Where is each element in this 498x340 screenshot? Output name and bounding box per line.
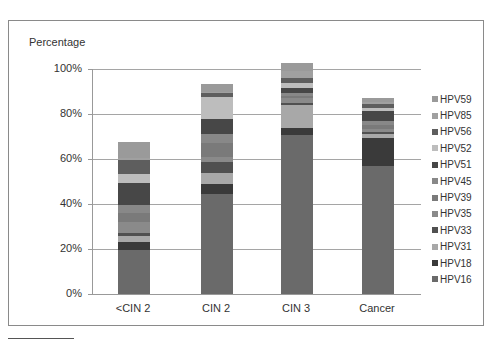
y-tick-label-40: 40% bbox=[42, 197, 82, 209]
bar-segment-hpv52 bbox=[201, 97, 233, 118]
bar-segment-hpv16 bbox=[201, 194, 233, 294]
y-tick-label-0: 0% bbox=[42, 287, 82, 299]
bar-cin3 bbox=[281, 63, 313, 294]
legend-item-hpv56: HPV56 bbox=[432, 124, 472, 140]
footnote-rule bbox=[8, 338, 74, 339]
y-tick-label-80: 80% bbox=[42, 107, 82, 119]
legend-label: HPV59 bbox=[440, 94, 472, 105]
legend-label: HPV45 bbox=[440, 176, 472, 187]
bar-segment-hpv39 bbox=[118, 213, 150, 222]
legend-swatch bbox=[432, 113, 438, 119]
bar-segment-hpv18 bbox=[118, 242, 150, 250]
bar-segment-hpv39 bbox=[201, 143, 233, 157]
plot-area bbox=[92, 69, 421, 295]
bar-segment-hpv16 bbox=[118, 250, 150, 294]
y-axis-title: Percentage bbox=[29, 36, 85, 48]
legend-item-hpv59: HPV59 bbox=[432, 91, 472, 107]
legend-swatch bbox=[432, 129, 438, 135]
legend-swatch bbox=[432, 211, 438, 217]
bar-segment-hpv31 bbox=[281, 105, 313, 128]
bar-segment-hpv16 bbox=[362, 166, 394, 294]
bar-segment-hpv31 bbox=[201, 173, 233, 184]
legend-swatch bbox=[432, 227, 438, 233]
bar-segment-hpv59 bbox=[281, 63, 313, 71]
bar-segment-hpv59 bbox=[118, 142, 150, 158]
legend-label: HPV33 bbox=[440, 225, 472, 236]
bar-segment-hpv18 bbox=[362, 138, 394, 166]
legend-label: HPV31 bbox=[440, 241, 472, 252]
bar-segment-hpv31 bbox=[118, 236, 150, 243]
legend-label: HPV51 bbox=[440, 159, 472, 170]
bar-segment-hpv35 bbox=[118, 222, 150, 233]
bar-cancer bbox=[362, 98, 394, 294]
bar-segment-hpv52 bbox=[118, 174, 150, 183]
legend: HPV59HPV85HPV56HPV52HPV51HPV45HPV39HPV35… bbox=[432, 91, 472, 288]
legend-item-hpv51: HPV51 bbox=[432, 157, 472, 173]
y-tick-label-60: 60% bbox=[42, 152, 82, 164]
legend-item-hpv52: HPV52 bbox=[432, 140, 472, 156]
bar-segment-hpv56 bbox=[118, 160, 150, 174]
legend-item-hpv45: HPV45 bbox=[432, 173, 472, 189]
legend-item-hpv85: HPV85 bbox=[432, 107, 472, 123]
legend-item-hpv18: HPV18 bbox=[432, 255, 472, 271]
legend-swatch bbox=[432, 96, 438, 102]
legend-swatch bbox=[432, 162, 438, 168]
x-label-cin3: CIN 3 bbox=[266, 302, 326, 314]
legend-label: HPV85 bbox=[440, 110, 472, 121]
legend-swatch bbox=[432, 276, 438, 282]
bar-segment-hpv51 bbox=[362, 111, 394, 121]
legend-swatch bbox=[432, 260, 438, 266]
bar-segment-hpv18 bbox=[201, 184, 233, 194]
bar-cin2-below bbox=[118, 142, 150, 294]
bar-segment-hpv85 bbox=[281, 71, 313, 78]
y-tick-label-20: 20% bbox=[42, 242, 82, 254]
x-label-cancer: Cancer bbox=[347, 302, 407, 314]
legend-item-hpv35: HPV35 bbox=[432, 206, 472, 222]
legend-item-hpv39: HPV39 bbox=[432, 189, 472, 205]
legend-label: HPV35 bbox=[440, 208, 472, 219]
legend-item-hpv33: HPV33 bbox=[432, 222, 472, 238]
bar-segment-hpv51 bbox=[118, 183, 150, 206]
legend-item-hpv16: HPV16 bbox=[432, 271, 472, 287]
legend-label: HPV16 bbox=[440, 274, 472, 285]
bar-cin2 bbox=[201, 84, 233, 294]
legend-item-hpv31: HPV31 bbox=[432, 239, 472, 255]
bar-segment-hpv45 bbox=[201, 134, 233, 143]
x-label-cin2: CIN 2 bbox=[186, 302, 246, 314]
legend-label: HPV18 bbox=[440, 258, 472, 269]
bar-segment-hpv18 bbox=[281, 128, 313, 136]
x-label-cin2-below: <CIN 2 bbox=[103, 302, 163, 314]
legend-swatch bbox=[432, 178, 438, 184]
legend-label: HPV56 bbox=[440, 126, 472, 137]
bar-segment-hpv33 bbox=[201, 162, 233, 172]
legend-label: HPV52 bbox=[440, 143, 472, 154]
legend-swatch bbox=[432, 145, 438, 151]
bar-segment-hpv45 bbox=[118, 205, 150, 213]
bar-segment-hpv59 bbox=[201, 84, 233, 92]
y-tick-label-100: 100% bbox=[42, 62, 82, 74]
legend-swatch bbox=[432, 195, 438, 201]
bar-segment-hpv51 bbox=[201, 119, 233, 135]
legend-swatch bbox=[432, 244, 438, 250]
gridline-100 bbox=[93, 69, 421, 70]
bar-segment-hpv16 bbox=[281, 135, 313, 294]
legend-label: HPV39 bbox=[440, 192, 472, 203]
